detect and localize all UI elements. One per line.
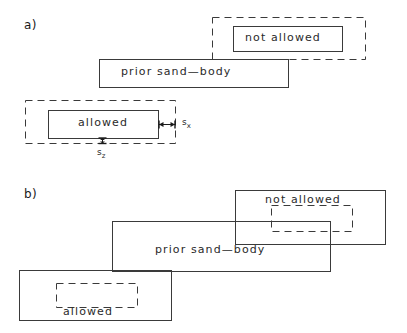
panel-a-sx-subscript: x: [187, 122, 191, 130]
panel-a-not-allowed-label: not allowed: [245, 31, 321, 44]
panel-b-not-allowed-label: not allowed: [265, 193, 341, 206]
panel-a-allowed-label: allowed: [78, 116, 128, 129]
panel-b-label: b): [24, 187, 37, 201]
panel-a-prior-sand-body-label: prior sand—body: [121, 65, 231, 78]
figure-canvas: a) not allowed prior sand—body allowed s…: [0, 0, 407, 333]
panel-a-sx-label: sx: [182, 117, 191, 130]
panel-a-sz-label: sz: [97, 147, 105, 160]
panel-a-sx-dimension-arrow: [159, 121, 175, 129]
panel-b-allowed-label: allowed: [63, 305, 113, 318]
panel-b-not-allowed-margin-rect: [272, 206, 353, 232]
figure-vector-layer: [0, 0, 407, 333]
panel-b-allowed-margin-rect: [57, 284, 138, 308]
panel-a-label: a): [24, 18, 37, 32]
panel-b-prior-sand-body-label: prior sand—body: [155, 243, 265, 256]
panel-a-sz-subscript: z: [102, 152, 106, 160]
